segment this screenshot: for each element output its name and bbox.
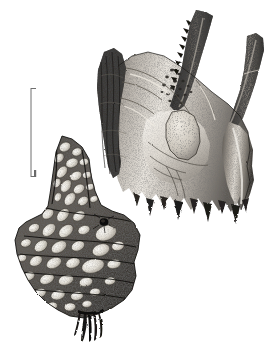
illustration-canvas bbox=[0, 0, 268, 344]
scale-bar-end-mark bbox=[34, 170, 36, 177]
figure-plate bbox=[0, 0, 268, 344]
